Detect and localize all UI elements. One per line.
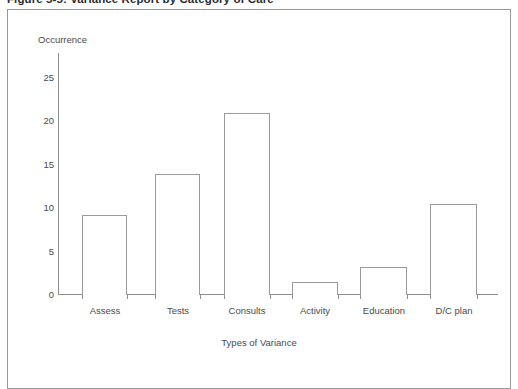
y-tick-label: 10 [32, 203, 54, 213]
x-tick [200, 294, 201, 299]
y-tick-10: 10 [28, 203, 54, 213]
x-category-label-dcplan: D/C plan [411, 305, 497, 316]
x-axis-title: Types of Variance [0, 337, 518, 348]
y-tick-15: 15 [28, 160, 54, 170]
y-axis-line [58, 53, 59, 295]
y-tick-label: 15 [32, 160, 54, 170]
bar-tests[interactable] [155, 174, 200, 295]
x-tick [338, 294, 339, 299]
y-tick-5: 5 [28, 247, 54, 257]
y-tick-0: 0 [28, 290, 54, 300]
bar-activity[interactable] [292, 282, 338, 295]
x-tick [407, 294, 408, 299]
x-tick [477, 294, 478, 299]
x-tick [127, 294, 128, 299]
bar-dcplan[interactable] [430, 204, 477, 295]
bar-education[interactable] [360, 267, 407, 295]
y-tick-label: 25 [32, 73, 54, 83]
y-tick-25: 25 [28, 73, 54, 83]
y-axis-title: Occurrence [38, 34, 87, 45]
bar-consults[interactable] [224, 113, 270, 295]
y-tick-label: 5 [32, 247, 54, 257]
bar-assess[interactable] [82, 215, 127, 296]
x-tick [270, 294, 271, 299]
y-tick-label: 20 [32, 116, 54, 126]
y-tick-label: 0 [32, 290, 54, 300]
x-category-label-assess: Assess [64, 305, 146, 316]
y-tick-20: 20 [28, 116, 54, 126]
